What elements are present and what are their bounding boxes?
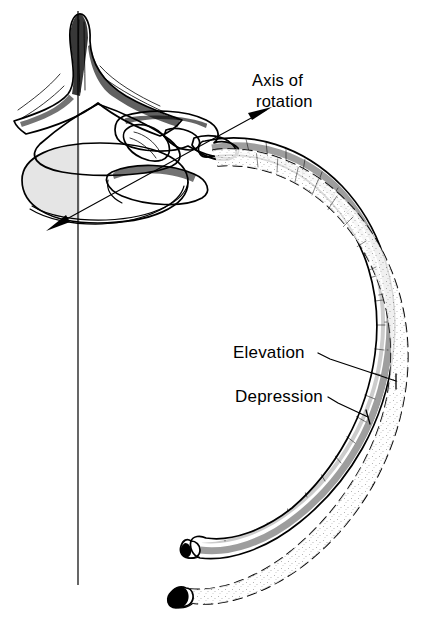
depression-label-text: Depression (235, 387, 323, 406)
label-depression: Depression (235, 387, 370, 424)
spinous-hatching (18, 20, 164, 118)
anatomical-figure: Axis of rotation Elevation Depression Ax… (0, 0, 448, 627)
rib-depressed (167, 149, 408, 609)
elevation-label-text: Elevation (233, 343, 305, 362)
figure-canvas: Axis of rotation Elevation Depression (0, 0, 448, 627)
vertebral-body (20, 140, 188, 230)
label-elevation: Elevation (233, 343, 396, 389)
label-axis-of-rotation: Axis of rotation (252, 71, 313, 110)
axis-of-rotation-line1: Axis of (252, 71, 303, 89)
axis-of-rotation-line2: rotation (256, 92, 313, 110)
